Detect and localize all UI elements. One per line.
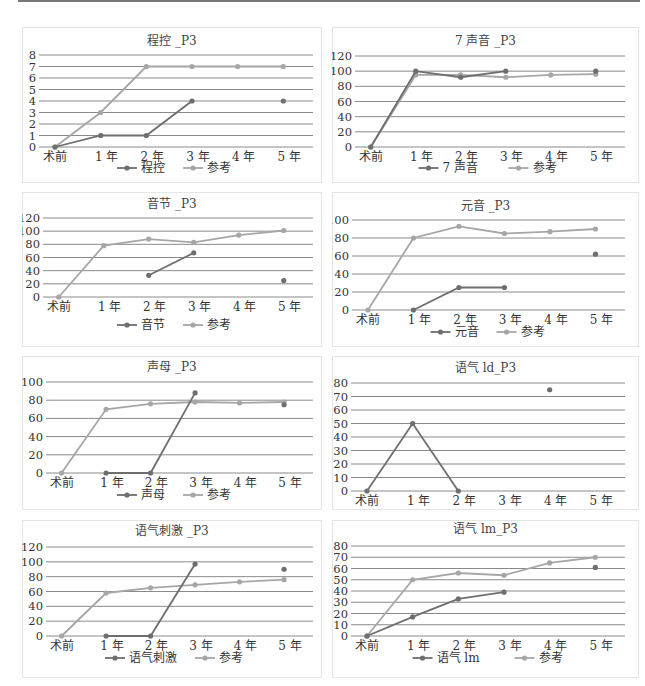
- y-tick-label: 80: [337, 79, 352, 93]
- x-tick-label: 3 年: [498, 494, 521, 508]
- y-tick-label: 10: [333, 471, 348, 485]
- y-tick-label: 80: [333, 376, 348, 390]
- data-point: [502, 231, 507, 236]
- y-tick-label: 30: [333, 444, 348, 458]
- y-tick-label: 40: [333, 430, 348, 444]
- data-point: [368, 144, 373, 149]
- data-point: [235, 64, 240, 69]
- legend-label: 元音: [455, 324, 479, 339]
- series-reference: [59, 577, 287, 639]
- x-tick-label: 术前: [43, 149, 67, 164]
- chart-legend: 音节参考: [117, 317, 231, 332]
- x-tick-label: 术前: [50, 475, 74, 490]
- chart-title: 语气 ld_P3: [455, 360, 516, 375]
- legend-label: 参考: [219, 650, 243, 665]
- y-tick-label: 20: [333, 457, 348, 471]
- data-point: [503, 69, 508, 74]
- y-tick-label: 70: [333, 390, 348, 404]
- series-main: [103, 561, 286, 638]
- x-tick-label: 1 年: [100, 476, 123, 490]
- x-tick-label: 1 年: [410, 150, 433, 164]
- data-point: [189, 64, 194, 69]
- data-point: [593, 226, 598, 231]
- x-tick-label: 2 年: [453, 494, 476, 508]
- data-point: [501, 590, 506, 595]
- x-tick-label: 5 年: [278, 476, 301, 490]
- x-tick-label: 5 年: [278, 150, 301, 164]
- series-reference: [52, 64, 286, 150]
- x-tick-label: 1 年: [98, 300, 121, 314]
- series-reference: [368, 72, 598, 150]
- data-point: [281, 402, 286, 407]
- y-tick-label: 20: [337, 125, 352, 139]
- data-point: [281, 577, 286, 582]
- y-tick-label: 40: [28, 430, 43, 444]
- y-tick-label: 100: [332, 213, 349, 227]
- data-point: [456, 224, 461, 229]
- y-tick-label: 40: [25, 264, 40, 278]
- data-point: [144, 133, 149, 138]
- chart-panel-c6: 语气 ld_P301020304050607080术前1 年2 年3 年4 年5…: [332, 356, 639, 510]
- x-tick-label: 4 年: [544, 313, 567, 327]
- data-point: [593, 252, 598, 257]
- x-tick-label: 4 年: [234, 476, 257, 490]
- x-tick-label: 3 年: [189, 639, 212, 653]
- data-point: [101, 243, 106, 248]
- y-tick-label: 80: [334, 231, 349, 245]
- data-point: [52, 144, 57, 149]
- series-reference: [364, 555, 598, 639]
- data-point: [410, 421, 415, 426]
- data-point: [281, 98, 286, 103]
- chart-panel-c5: 声母 _P3020406080100术前1 年2 年3 年4 年5 年声母参考: [22, 356, 322, 510]
- data-point: [410, 577, 415, 582]
- y-tick-label: 120: [22, 211, 40, 225]
- x-tick-label: 3 年: [499, 313, 522, 327]
- data-point: [192, 582, 197, 587]
- x-tick-label: 1 年: [407, 494, 430, 508]
- legend-label: 参考: [539, 650, 563, 665]
- data-point: [148, 401, 153, 406]
- series-main: [411, 252, 598, 313]
- data-point: [593, 555, 598, 560]
- x-tick-label: 1 年: [407, 639, 430, 653]
- y-tick-label: 120: [332, 49, 352, 63]
- data-point: [103, 590, 108, 595]
- data-point: [189, 98, 194, 103]
- chart-title: 语气刺激 _P3: [135, 523, 209, 538]
- data-point: [237, 400, 242, 405]
- data-point: [410, 614, 415, 619]
- x-tick-label: 术前: [359, 149, 383, 164]
- data-point: [56, 294, 61, 299]
- chart-title: 语气 lm_P3: [453, 521, 518, 536]
- chart-title: 程控 _P3: [147, 33, 197, 48]
- data-point: [146, 236, 151, 241]
- chart-legend: 程控参考: [117, 160, 231, 175]
- x-tick-label: 术前: [47, 299, 71, 314]
- chart-title: 声母 _P3: [147, 360, 197, 374]
- y-tick-label: 0: [342, 303, 349, 317]
- data-point: [59, 470, 64, 475]
- legend-label: 参考: [207, 487, 231, 502]
- chart-title: 7 声音 _P3: [455, 33, 516, 48]
- series-main: [364, 565, 598, 639]
- chart-legend: 语气 lm参考: [413, 650, 563, 665]
- data-point: [103, 407, 108, 412]
- y-tick-label: 100: [22, 375, 43, 389]
- y-tick-label: 20: [28, 448, 43, 462]
- data-point: [192, 390, 197, 395]
- y-tick-label: 60: [28, 585, 43, 599]
- x-tick-label: 3 年: [498, 639, 521, 653]
- y-tick-label: 20: [28, 614, 43, 628]
- top-rule: [18, 0, 640, 2]
- y-tick-label: 0: [33, 290, 40, 304]
- y-tick-label: 8: [29, 48, 36, 62]
- data-point: [502, 285, 507, 290]
- y-tick-label: 50: [333, 417, 348, 431]
- data-point: [413, 69, 418, 74]
- data-point: [148, 585, 153, 590]
- y-tick-label: 20: [334, 285, 349, 299]
- x-tick-label: 1 年: [408, 313, 431, 327]
- data-point: [547, 387, 552, 392]
- x-tick-label: 5 年: [590, 313, 613, 327]
- legend-label: 参考: [207, 160, 231, 175]
